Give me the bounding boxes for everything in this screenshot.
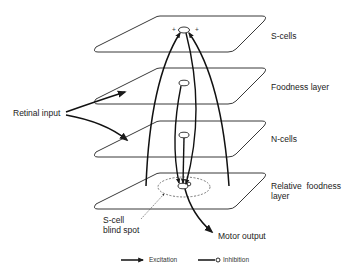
foodness-node [179,80,189,86]
s-cell-node [179,27,190,33]
layer-plane-n-cells [94,121,265,157]
legend: Excitation Inhibition [121,256,249,263]
plus-sign-left: + [172,26,176,33]
layer-plane-foodness [94,68,265,104]
legend-inhibition: Inhibition [198,256,249,263]
label-relative-foodness-line1: Relative foodness [271,181,341,191]
retinal-input-arrow-upper [66,92,125,112]
label-relative-foodness-line2: layer [271,191,290,201]
inhibition-terminal [187,182,191,186]
inhibition-circle-icon [216,258,220,262]
plus-sign-right: + [195,26,199,33]
layer-plane-relative-foodness [94,173,265,209]
n-cell-node [179,132,189,138]
n-cell-descending-path [183,138,184,183]
neural-layer-diagram: + + S-cells Foodness layer N-cells Relat… [0,0,347,272]
label-n-cells: N-cells [271,134,297,144]
excitation-path-right-outer [189,33,229,186]
excitation-path-left-outer [146,33,180,186]
label-motor-output: Motor output [218,231,266,241]
legend-excitation: Excitation [121,256,178,263]
label-foodness-layer: Foodness layer [271,82,329,92]
retinal-input-arrow-lower [66,115,127,140]
legend-inhibition-label: Inhibition [223,256,249,263]
label-retinal-input: Retinal input [13,108,61,118]
label-blind-spot-line2: blind spot [103,225,140,235]
s-cell-descending-path [186,33,196,184]
legend-excitation-label: Excitation [149,256,178,263]
label-blind-spot-line1: S-cell [103,215,124,225]
blind-spot-pointer [141,194,164,219]
label-s-cells: S-cells [271,31,297,41]
